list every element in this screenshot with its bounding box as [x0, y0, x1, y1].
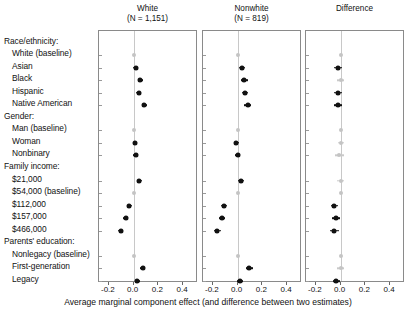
row-level-label: First-generation: [12, 262, 70, 271]
y-tick: [306, 143, 309, 144]
row-level-label: Native American: [12, 99, 72, 108]
estimate-point: [132, 140, 137, 145]
panel-title-line1: Nonwhite: [202, 4, 301, 14]
y-tick: [203, 143, 206, 144]
y-tick: [203, 130, 206, 131]
row-level-label: Hispanic: [12, 87, 44, 96]
x-tick-label: -0.2: [308, 285, 322, 294]
y-tick: [99, 206, 102, 207]
estimate-point: [220, 216, 225, 221]
y-tick: [203, 68, 206, 69]
panel-title-white: White(N = 1,151): [98, 4, 197, 24]
y-tick: [203, 218, 206, 219]
baseline-point: [236, 53, 240, 57]
y-tick: [99, 231, 102, 232]
estimate-point: [133, 65, 138, 70]
row-level-label: Nonlegacy (baseline): [12, 250, 90, 259]
y-tick: [306, 130, 309, 131]
y-tick: [203, 93, 206, 94]
estimate-point: [136, 90, 141, 95]
y-tick: [99, 93, 102, 94]
estimate-point: [238, 278, 243, 283]
row-level-label: Asian: [12, 62, 33, 71]
y-tick: [306, 268, 309, 269]
x-axis-label: Average marginal component effect (and d…: [0, 297, 416, 307]
panel-title-difference: Difference: [305, 4, 404, 14]
estimate-point: [127, 203, 132, 208]
baseline-point: [339, 266, 343, 270]
estimate-point: [133, 153, 138, 158]
row-level-label: Nonbinary: [12, 149, 50, 158]
estimate-point: [336, 65, 341, 70]
x-tick-label: 0.0: [231, 285, 242, 294]
estimate-point: [222, 203, 227, 208]
y-tick: [306, 68, 309, 69]
y-tick: [203, 80, 206, 81]
x-tick-label: -0.2: [205, 285, 219, 294]
y-tick: [203, 181, 206, 182]
estimate-point: [336, 90, 341, 95]
baseline-point: [339, 141, 343, 145]
y-tick: [306, 231, 309, 232]
estimate-point: [334, 278, 339, 283]
estimate-point: [332, 203, 337, 208]
y-tick: [99, 181, 102, 182]
estimate-point: [138, 78, 143, 83]
y-tick: [99, 55, 102, 56]
baseline-point: [339, 191, 343, 195]
y-tick: [99, 130, 102, 131]
y-tick: [203, 256, 206, 257]
y-tick: [99, 68, 102, 69]
x-tick-label: 0.2: [256, 285, 267, 294]
row-level-label: $54,000 (baseline): [12, 187, 80, 196]
baseline-point: [236, 128, 240, 132]
estimate-point: [247, 266, 252, 271]
x-tick-label: 0.4: [281, 285, 292, 294]
baseline-point: [339, 254, 343, 258]
row-group-label: Parents' education:: [4, 237, 75, 246]
row-group-label: Family income:: [4, 162, 60, 171]
estimate-point: [239, 65, 244, 70]
estimate-point: [334, 216, 339, 221]
estimate-point: [332, 228, 337, 233]
plot-panel-white: [98, 30, 197, 282]
baseline-point: [339, 53, 343, 57]
y-tick: [203, 231, 206, 232]
y-tick: [203, 155, 206, 156]
panel-title-line2: (N = 819): [202, 14, 301, 24]
row-group-label: Gender:: [4, 112, 34, 121]
baseline-point: [132, 191, 136, 195]
baseline-point: [337, 153, 341, 157]
plot-panel-difference: [305, 30, 404, 282]
panel-title-line2: (N = 1,151): [98, 14, 197, 24]
y-tick: [306, 55, 309, 56]
y-tick: [306, 93, 309, 94]
row-level-label: Black: [12, 74, 32, 83]
y-tick: [306, 206, 309, 207]
x-tick-label: 0.4: [384, 285, 395, 294]
baseline-point: [339, 128, 343, 132]
row-level-label: $157,000: [12, 212, 47, 221]
estimate-point: [245, 103, 250, 108]
row-level-label: $112,000: [12, 200, 46, 209]
x-tick-label: -0.2: [101, 285, 115, 294]
estimate-point: [118, 228, 123, 233]
estimate-point: [235, 153, 240, 158]
estimate-point: [238, 178, 243, 183]
y-tick: [99, 155, 102, 156]
baseline-point: [132, 254, 136, 258]
y-tick: [99, 80, 102, 81]
estimate-point: [336, 103, 341, 108]
row-group-label: Race/ethnicity:: [4, 37, 58, 46]
y-tick: [203, 105, 206, 106]
x-tick-label: 0.2: [152, 285, 163, 294]
y-tick: [203, 268, 206, 269]
estimate-point: [140, 266, 145, 271]
baseline-point: [236, 191, 240, 195]
panel-title-nonwhite: Nonwhite(N = 819): [202, 4, 301, 24]
x-tick-label: 0.4: [177, 285, 188, 294]
y-tick: [99, 193, 102, 194]
y-tick: [306, 193, 309, 194]
estimate-point: [137, 178, 142, 183]
row-level-label: White (baseline): [12, 49, 72, 58]
